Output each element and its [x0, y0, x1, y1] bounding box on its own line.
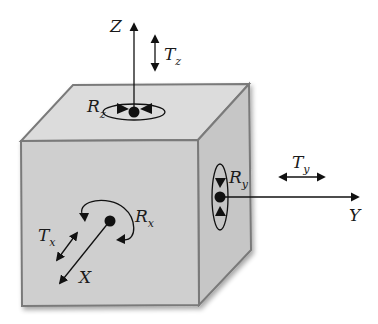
y-axis-label: Y	[349, 205, 362, 225]
x-origin-dot	[105, 216, 116, 227]
x-axis-label: X	[77, 267, 92, 287]
z-axis-label: Z	[109, 16, 123, 36]
z-origin-dot	[129, 107, 140, 118]
y-origin-dot	[215, 192, 226, 203]
cube-dof-diagram: Z Tz Rz Y Ty Ry X Tx Rx	[0, 0, 378, 324]
tz-label: Tz	[164, 44, 181, 68]
ty-label: Ty	[292, 152, 310, 176]
